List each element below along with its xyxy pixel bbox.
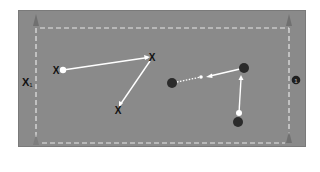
pass-lines-x [63,58,150,106]
pass-lines-o [210,69,241,113]
ball-icon [60,67,66,73]
player-x-icon: X [115,105,122,116]
player-circle-icon [239,63,249,73]
ball-icon [199,75,203,79]
number-badge: 1 [292,76,301,85]
player-circle-icon [167,78,177,88]
cone-icon [33,134,39,145]
player-x-icon: X [149,52,156,63]
drill-diagram: X X X 1 [0,0,320,172]
dribble-line [177,77,201,82]
cone-icon [286,131,292,143]
cone-icon [33,14,39,26]
x-players: X X X [53,52,156,116]
o-players [167,63,249,127]
player-circle-icon [233,117,243,127]
cone-icons [33,14,292,145]
player-x-icon: X [53,65,60,76]
arrowhead-icon [239,75,244,80]
cone-icon [286,14,292,26]
ball-icon [236,110,242,116]
dashed-boundary [36,28,289,143]
arrowhead-icon [206,74,213,79]
attacker-label: X1 [22,76,33,88]
